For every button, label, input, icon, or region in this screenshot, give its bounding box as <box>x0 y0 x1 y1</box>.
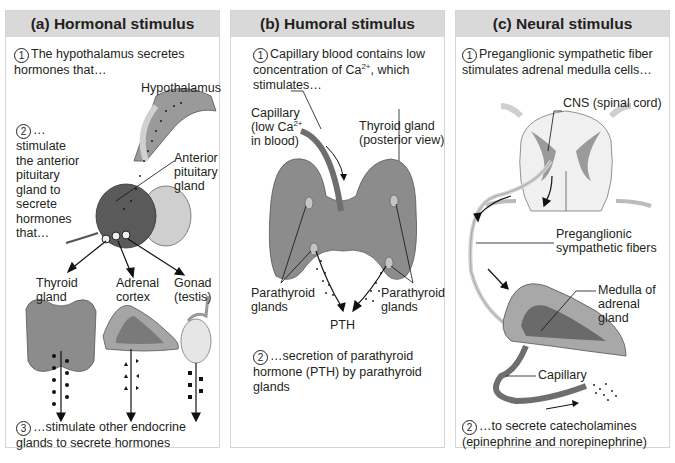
step-1-text: 1The hypothalamus secretes hormones that… <box>14 47 214 78</box>
step-number-1: 1 <box>14 48 29 63</box>
label-pth: PTH <box>330 318 355 332</box>
panel-humoral-stimulus: (b) Humoral stimulus 1Capill <box>230 10 445 448</box>
step-2-text: 2…secretion of parathyroid hormone (PTH)… <box>253 349 443 394</box>
label-capillary: Capillary <box>538 368 587 382</box>
label-parathyroid-right: Parathyroid glands <box>381 286 451 314</box>
panel-neural-stimulus: (c) Neural stimulus <box>455 10 670 448</box>
label-anterior-pituitary: Anterior pituitary gland <box>174 151 222 193</box>
step-number-2: 2 <box>462 420 477 435</box>
step-3-text: 3…stimulate other endocrine glands to se… <box>16 420 216 451</box>
label-cns: CNS (spinal cord) <box>563 96 662 110</box>
step-number-2: 2 <box>253 350 268 365</box>
step-1-text: 1Capillary blood contains low concentrat… <box>253 47 443 92</box>
panel-hormonal-stimulus: (a) Hormonal stimulus <box>5 10 220 448</box>
step-2-text: 2…to secrete catecholamines (epinephrine… <box>462 419 672 450</box>
label-hypothalamus: Hypothalamus <box>141 81 221 95</box>
step-number-3: 3 <box>16 421 31 436</box>
step-number-1: 1 <box>462 48 477 63</box>
label-parathyroid-left: Parathyroid glands <box>251 286 321 314</box>
label-thyroid-posterior: Thyroid gland (posterior view) <box>359 119 449 147</box>
label-adrenal-medulla: Medulla of adrenal gland <box>598 283 663 325</box>
label-capillary: Capillary(low Ca2+in blood) <box>251 106 321 148</box>
step-number-2: 2 <box>16 124 31 139</box>
label-adrenal-cortex: Adrenal cortex <box>116 276 166 304</box>
step-1-text: 1Preganglionic sympathetic fiber stimula… <box>462 47 667 78</box>
label-thyroid-gland: Thyroid gland <box>36 276 86 304</box>
step-number-1: 1 <box>253 48 268 63</box>
testis-shape <box>181 319 211 363</box>
step-2-text: 2…stimulate the anterior pituitary gland… <box>16 123 86 241</box>
label-gonad-testis: Gonad (testis) <box>174 276 224 304</box>
label-preganglionic-fibers: Preganglionic sympathetic fibers <box>556 227 666 255</box>
